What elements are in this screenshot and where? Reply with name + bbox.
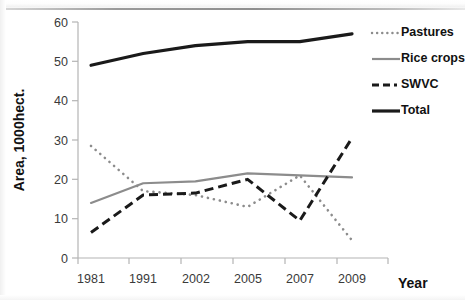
chart-background bbox=[0, 0, 465, 300]
x-axis-title: Year bbox=[398, 275, 428, 291]
y-tick-label-30: 30 bbox=[54, 134, 68, 148]
x-tick-label-2002: 2002 bbox=[182, 272, 210, 286]
legend-label-pastures: Pastures bbox=[401, 25, 454, 39]
legend-label-total: Total bbox=[401, 103, 430, 117]
x-tick-label-1991: 1991 bbox=[129, 272, 157, 286]
x-tick-label-2005: 2005 bbox=[234, 272, 262, 286]
y-tick-label-50: 50 bbox=[54, 55, 68, 69]
y-axis-title: Area, 1000hect. bbox=[11, 89, 27, 192]
line-chart: 60 50 40 30 20 10 0 1981 1991 2002 2005 … bbox=[0, 0, 465, 300]
x-tick-label-1981: 1981 bbox=[77, 272, 105, 286]
y-tick-label-20: 20 bbox=[54, 173, 68, 187]
y-tick-label-0: 0 bbox=[61, 252, 68, 266]
legend-label-rice-crops: Rice crops bbox=[401, 51, 465, 65]
x-tick-label-2009: 2009 bbox=[338, 272, 366, 286]
y-tick-label-10: 10 bbox=[54, 212, 68, 226]
legend-label-swvc: SWVC bbox=[401, 77, 439, 91]
x-tick-label-2007: 2007 bbox=[286, 272, 314, 286]
y-tick-label-40: 40 bbox=[54, 94, 68, 108]
y-tick-label-60: 60 bbox=[54, 16, 68, 30]
chart-figure: 60 50 40 30 20 10 0 1981 1991 2002 2005 … bbox=[0, 0, 465, 300]
